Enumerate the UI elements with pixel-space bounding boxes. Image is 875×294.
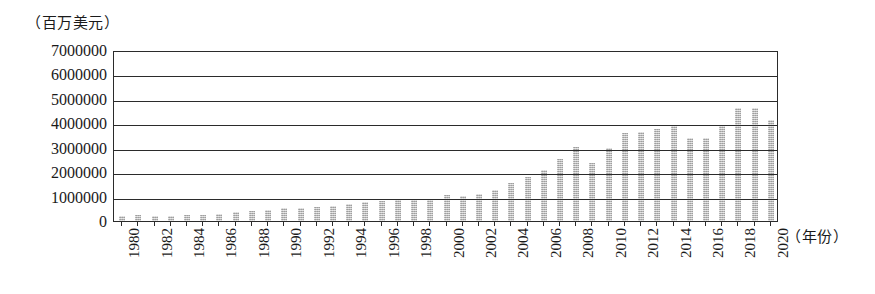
x-axis-tick-label: 1986 xyxy=(224,228,239,258)
bar xyxy=(233,212,239,221)
x-axis-tick-label: 1992 xyxy=(322,228,337,258)
bar xyxy=(703,138,709,221)
x-axis-tick-mark xyxy=(316,222,317,226)
x-axis-tick-mark xyxy=(494,222,495,226)
bar xyxy=(573,147,579,221)
x-axis-tick-label: 2016 xyxy=(711,228,726,258)
x-axis-tick-mark xyxy=(462,222,463,226)
x-axis-tick-mark xyxy=(737,222,738,226)
bar xyxy=(395,200,401,221)
bar xyxy=(460,196,466,221)
y-axis-tick-label: 4000000 xyxy=(51,116,107,132)
x-axis-tick-label: 2000 xyxy=(452,228,467,258)
bars-layer xyxy=(114,52,777,221)
bar xyxy=(768,120,774,221)
y-axis-tick-label: 3000000 xyxy=(51,141,107,157)
x-axis-tick-mark xyxy=(510,222,511,226)
x-axis-tick-mark xyxy=(640,222,641,226)
bar xyxy=(362,202,368,221)
bar xyxy=(476,194,482,221)
x-axis-tick-mark xyxy=(283,222,284,226)
x-axis-tick-mark xyxy=(251,222,252,226)
x-axis-tick-mark xyxy=(429,222,430,226)
x-axis-tick-mark xyxy=(364,222,365,226)
bar xyxy=(184,215,190,221)
x-axis-tick-mark xyxy=(754,222,755,226)
y-axis-tick-label: 6000000 xyxy=(51,67,107,83)
bar xyxy=(216,214,222,221)
x-axis-tick-mark xyxy=(137,222,138,226)
x-axis-tick-mark xyxy=(186,222,187,226)
x-axis-tick-label: 1982 xyxy=(160,228,175,258)
bar xyxy=(346,204,352,221)
x-axis-tick-label: 1990 xyxy=(289,228,304,258)
x-axis-tick-label: 1980 xyxy=(127,228,142,258)
x-axis-tick-mark xyxy=(770,222,771,226)
x-axis-tick-labels: 1980198219841986198819901992199419961998… xyxy=(113,222,778,294)
x-axis-tick-mark xyxy=(689,222,690,226)
x-axis-tick-mark xyxy=(202,222,203,226)
x-axis-tick-mark xyxy=(673,222,674,226)
bar xyxy=(687,138,693,221)
x-axis-tick-mark xyxy=(624,222,625,226)
x-axis-tick-mark xyxy=(608,222,609,226)
bar xyxy=(541,170,547,221)
x-axis-tick-label: 2008 xyxy=(581,228,596,258)
x-axis-tick-mark xyxy=(413,222,414,226)
bar-chart: （百万美元） 010000002000000300000040000005000… xyxy=(0,0,875,294)
x-axis-tick-label: 1988 xyxy=(257,228,272,258)
x-axis-tick-mark xyxy=(575,222,576,226)
bar xyxy=(379,201,385,221)
x-axis-tick-label: 2010 xyxy=(614,228,629,258)
y-axis-tick-label: 7000000 xyxy=(51,43,107,59)
x-axis-tick-label: 2012 xyxy=(646,228,661,258)
bar xyxy=(654,129,660,221)
x-axis-tick-label: 2018 xyxy=(743,228,758,258)
bar xyxy=(622,133,628,221)
x-axis-tick-mark xyxy=(381,222,382,226)
x-axis-tick-mark xyxy=(527,222,528,226)
x-axis-tick-mark xyxy=(267,222,268,226)
x-axis-tick-label: 2014 xyxy=(679,228,694,258)
x-axis-tick-mark xyxy=(656,222,657,226)
x-axis-tick-mark xyxy=(154,222,155,226)
bar xyxy=(492,190,498,221)
bar xyxy=(411,200,417,221)
x-axis-tick-label: 2006 xyxy=(549,228,564,258)
x-axis-tick-mark xyxy=(170,222,171,226)
bar xyxy=(330,206,336,221)
x-axis-tick-mark xyxy=(591,222,592,226)
bar xyxy=(249,211,255,221)
bar xyxy=(314,207,320,221)
bar xyxy=(752,108,758,221)
bar xyxy=(638,132,644,221)
x-axis-tick-mark xyxy=(397,222,398,226)
bar xyxy=(265,210,271,221)
x-axis-tick-label: 2004 xyxy=(516,228,531,258)
x-axis-tick-mark xyxy=(543,222,544,226)
x-axis-tick-mark xyxy=(478,222,479,226)
x-axis-unit-label: （年份） xyxy=(786,228,848,246)
bar xyxy=(508,183,514,221)
y-axis-tick-label: 1000000 xyxy=(51,190,107,206)
y-axis-tick-label: 0 xyxy=(99,214,107,230)
x-axis-tick-mark xyxy=(348,222,349,226)
bar xyxy=(557,159,563,221)
y-axis-tick-label: 5000000 xyxy=(51,92,107,108)
bar xyxy=(444,195,450,221)
bar xyxy=(427,199,433,221)
bar xyxy=(298,208,304,221)
x-axis-tick-label: 1994 xyxy=(354,228,369,258)
bar xyxy=(200,215,206,221)
x-axis-tick-mark xyxy=(300,222,301,226)
x-axis-tick-mark xyxy=(235,222,236,226)
bar xyxy=(119,216,125,221)
x-axis-tick-label: 1998 xyxy=(419,228,434,258)
bar xyxy=(735,108,741,221)
x-axis-tick-label: 1984 xyxy=(192,228,207,258)
bar xyxy=(281,208,287,221)
bar xyxy=(719,126,725,221)
y-axis-tick-labels: 0100000020000003000000400000050000006000… xyxy=(0,0,107,294)
bar xyxy=(168,216,174,221)
bar xyxy=(671,125,677,221)
